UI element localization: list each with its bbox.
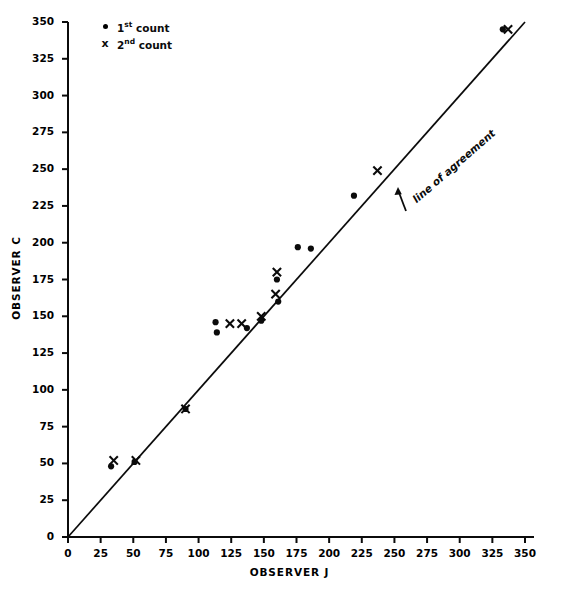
plot-canvas — [0, 0, 579, 590]
x-tick-225: 225 — [345, 547, 379, 559]
x-tick-125: 125 — [214, 547, 248, 559]
x-tick-250: 250 — [377, 547, 411, 559]
x-tick-150: 150 — [247, 547, 281, 559]
x-tick-75: 75 — [149, 547, 183, 559]
x-tick-325: 325 — [475, 547, 509, 559]
y-tick-25: 25 — [20, 493, 54, 505]
data-point-dot — [212, 319, 218, 325]
y-tick-0: 0 — [20, 530, 54, 542]
data-point-x — [374, 167, 381, 174]
y-tick-325: 325 — [20, 52, 54, 64]
x-axis-title: OBSERVER J — [0, 566, 579, 578]
data-point-dot — [214, 329, 220, 335]
legend: 1st count x2nd count — [97, 16, 227, 50]
y-tick-200: 200 — [20, 236, 54, 248]
x-tick-0: 0 — [51, 547, 85, 559]
data-point-dot — [308, 246, 314, 252]
series-2nd-count — [110, 26, 511, 464]
data-point-dot — [274, 276, 280, 282]
x-tick-200: 200 — [312, 547, 346, 559]
legend-item-1st-count: 1st count — [97, 16, 227, 33]
x-marker-icon: x — [97, 35, 113, 52]
y-axis-title: OBSERVER C — [10, 228, 22, 328]
legend-item-2nd-count: x2nd count — [97, 33, 227, 50]
y-tick-275: 275 — [20, 125, 54, 137]
data-point-x — [110, 457, 117, 464]
x-tick-175: 175 — [280, 547, 314, 559]
y-tick-75: 75 — [20, 420, 54, 432]
x-tick-50: 50 — [116, 547, 150, 559]
y-tick-150: 150 — [20, 309, 54, 321]
data-point-dot — [351, 193, 357, 199]
data-point-x — [272, 291, 279, 298]
y-tick-225: 225 — [20, 199, 54, 211]
scatter-plot-figure: 0255075100125150175200225250275300325350… — [0, 0, 579, 590]
x-tick-350: 350 — [508, 547, 542, 559]
legend-label-2nd-count: 2nd count — [113, 33, 172, 54]
annotation-arrow-icon — [395, 187, 407, 211]
series-1st-count — [108, 26, 506, 469]
y-tick-350: 350 — [20, 15, 54, 27]
x-tick-275: 275 — [410, 547, 444, 559]
x-tick-25: 25 — [84, 547, 118, 559]
data-point-dot — [295, 244, 301, 250]
y-tick-175: 175 — [20, 273, 54, 285]
y-tick-125: 125 — [20, 346, 54, 358]
data-point-x — [238, 320, 245, 327]
x-tick-300: 300 — [443, 547, 477, 559]
data-point-dot — [275, 298, 281, 304]
y-tick-100: 100 — [20, 383, 54, 395]
y-tick-250: 250 — [20, 162, 54, 174]
y-tick-50: 50 — [20, 456, 54, 468]
data-point-x — [274, 269, 281, 276]
x-tick-100: 100 — [182, 547, 216, 559]
data-point-x — [227, 320, 234, 327]
y-tick-300: 300 — [20, 89, 54, 101]
